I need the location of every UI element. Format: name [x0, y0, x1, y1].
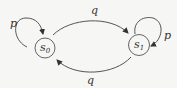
svg-text:s1: s1: [134, 38, 144, 52]
transition-s0-s0: p: [10, 17, 43, 47]
svg-text:q: q: [91, 4, 98, 17]
state-diagram: s0 s1 p q p q: [0, 0, 177, 88]
state-s1: s1: [129, 35, 150, 56]
diagram-svg: s0 s1 p q p q: [0, 0, 177, 88]
transition-s1-s0: q: [57, 57, 131, 87]
state-s0: s0: [35, 38, 55, 58]
svg-text:s0: s0: [40, 41, 51, 55]
transition-s0-s1: q: [53, 4, 128, 35]
transition-s1-s1: p: [135, 18, 171, 46]
svg-text:p: p: [10, 17, 17, 30]
svg-text:q: q: [87, 74, 94, 87]
svg-text:p: p: [164, 29, 171, 42]
